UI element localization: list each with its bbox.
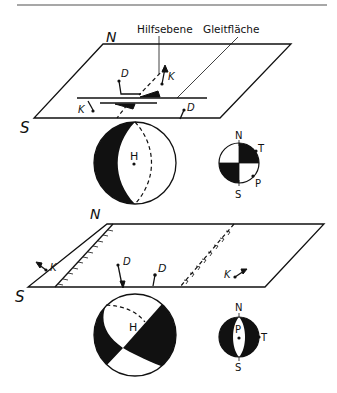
stereonet-quadrant-ne: [239, 143, 259, 163]
k-left-vector: [36, 262, 48, 272]
upper-t-axis-label: T: [257, 143, 265, 154]
slip-arrow-upper: [140, 91, 160, 97]
lower-focal-sphere: H: [80, 294, 200, 376]
d-mid-vector: [153, 275, 155, 286]
k-right-arrowhead: [241, 269, 247, 274]
stereonet-quadrant-sw: [219, 163, 239, 183]
lower-compass-south: S: [15, 288, 25, 306]
lower-sphere-label: H: [129, 321, 137, 334]
slip-plane-leader: [177, 37, 238, 98]
auxiliary-plane-trace-upper: [139, 68, 165, 95]
upper-stereonet: N S T P: [219, 130, 265, 200]
d-upper-vector: [119, 81, 141, 94]
upper-sphere-label: H: [130, 150, 138, 163]
lower-stereonet-north: N: [235, 302, 242, 313]
upper-stereonet-north: N: [235, 130, 242, 141]
upper-focal-sphere: H: [94, 122, 176, 204]
left-fault-trace: [55, 224, 113, 287]
upper-compass-south: S: [20, 119, 30, 137]
lower-horizontal-plane: [28, 224, 324, 287]
d-lower-label: D: [187, 102, 195, 113]
d-left-label: D: [123, 256, 131, 267]
upper-compass-north: N: [106, 29, 117, 45]
upper-block: N S Hilfsebene Gleitfläche D K K D: [20, 23, 291, 204]
k-lower-vector: [88, 101, 93, 110]
auxiliary-plane-label: Hilfsebene: [137, 23, 193, 35]
k-lower-dot: [91, 109, 94, 112]
diagram-canvas: N S Hilfsebene Gleitfläche D K K D: [0, 0, 337, 393]
lower-compass-north: N: [90, 206, 101, 222]
k-lower-label: K: [78, 104, 86, 115]
lower-p-axis-label: P: [235, 324, 241, 335]
upper-p-axis-label: P: [255, 178, 261, 189]
d-upper-label: D: [121, 68, 129, 79]
p-axis-dot: [237, 336, 240, 339]
lower-t-axis-label: T: [260, 332, 268, 343]
k-upper-label: K: [168, 71, 176, 82]
k-right-label: K: [224, 269, 232, 280]
lower-stereonet-south: S: [235, 362, 241, 373]
focal-mechanism-figure: N S Hilfsebene Gleitfläche D K K D: [0, 0, 337, 393]
upper-hypocenter-dot: [132, 162, 135, 165]
d-mid-label: D: [158, 262, 166, 275]
lower-block: N S: [15, 206, 324, 376]
upper-stereonet-south: S: [235, 189, 241, 200]
slip-plane-label: Gleitfläche: [203, 23, 259, 35]
lower-stereonet: N S P T: [219, 302, 268, 373]
